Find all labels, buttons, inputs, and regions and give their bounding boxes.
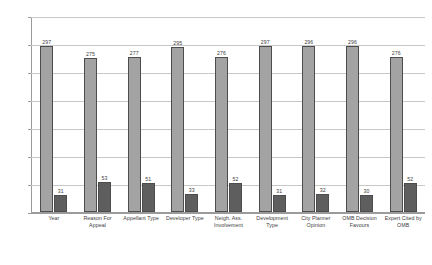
bar-group: 27652: [381, 17, 425, 212]
y-tick-mark: [28, 73, 31, 74]
category-label: Developer Type: [163, 215, 207, 230]
bar[interactable]: 297: [259, 46, 272, 212]
bar-group: 27652: [207, 17, 251, 212]
bar[interactable]: 295: [171, 47, 184, 212]
bar-value-label: 276: [217, 50, 226, 56]
bar[interactable]: 30: [360, 195, 373, 212]
bar[interactable]: 33: [185, 194, 198, 212]
bar-group: 29630: [338, 17, 382, 212]
category-axis: YearReason For AppealAppellant TypeDevel…: [32, 215, 425, 230]
bar[interactable]: 51: [142, 183, 155, 212]
bar-value-label: 276: [392, 50, 401, 56]
bar-group: 27751: [119, 17, 163, 212]
bar[interactable]: 296: [346, 46, 359, 212]
bar-value-label: 295: [173, 40, 182, 46]
bar[interactable]: 297: [40, 46, 53, 212]
category-label: Development Type: [250, 215, 294, 230]
category-label: Reason For Appeal: [76, 215, 120, 230]
bar-chart: 050100150200250300350 297312755327751295…: [0, 0, 432, 265]
bar-group: 29731: [250, 17, 294, 212]
y-tick-mark: [28, 129, 31, 130]
bar[interactable]: 296: [302, 46, 315, 212]
y-tick-mark: [28, 185, 31, 186]
bar-value-label: 51: [145, 176, 151, 182]
bar-value-label: 31: [276, 188, 282, 194]
bar-value-label: 297: [42, 39, 51, 45]
bar-group: 29731: [32, 17, 76, 212]
bar[interactable]: 53: [98, 182, 111, 212]
category-label: Appellant Type: [119, 215, 163, 230]
bar[interactable]: 275: [84, 58, 97, 212]
bar-value-label: 52: [233, 176, 239, 182]
bar[interactable]: 31: [54, 195, 67, 212]
bar-group: 29533: [163, 17, 207, 212]
bar-value-label: 277: [130, 50, 139, 56]
bar-group: 27553: [76, 17, 120, 212]
bar-value-label: 53: [102, 175, 108, 181]
category-label: Neigh. Ass. Involvement: [207, 215, 251, 230]
bar-value-label: 297: [261, 39, 270, 45]
bar-value-label: 32: [320, 187, 326, 193]
y-tick-mark: [28, 213, 31, 214]
bar[interactable]: 32: [316, 194, 329, 212]
bar[interactable]: 277: [128, 57, 141, 212]
bar-groups: 2973127553277512953327652297312963229630…: [32, 17, 425, 212]
y-tick-mark: [28, 101, 31, 102]
bar-group: 29632: [294, 17, 338, 212]
bar-value-label: 296: [348, 39, 357, 45]
y-tick-mark: [28, 157, 31, 158]
bar-value-label: 52: [407, 176, 413, 182]
bar-value-label: 33: [189, 187, 195, 193]
y-tick-mark: [28, 45, 31, 46]
bar-value-label: 275: [86, 51, 95, 57]
bar[interactable]: 52: [404, 183, 417, 212]
bar-value-label: 30: [364, 188, 370, 194]
y-tick-mark: [28, 17, 31, 18]
category-label: City Planner Opinion: [294, 215, 338, 230]
bar[interactable]: 31: [273, 195, 286, 212]
category-label: Year: [32, 215, 76, 230]
bar[interactable]: 276: [215, 57, 228, 212]
bar[interactable]: 52: [229, 183, 242, 212]
category-label: OMB Decision Favours: [338, 215, 382, 230]
plot-frame: 050100150200250300350 297312755327751295…: [31, 17, 425, 213]
category-label: Expert Cited by OMB: [381, 215, 425, 230]
gridline: [31, 213, 425, 214]
bar-value-label: 296: [304, 39, 313, 45]
bar[interactable]: 276: [390, 57, 403, 212]
bar-value-label: 31: [58, 188, 64, 194]
